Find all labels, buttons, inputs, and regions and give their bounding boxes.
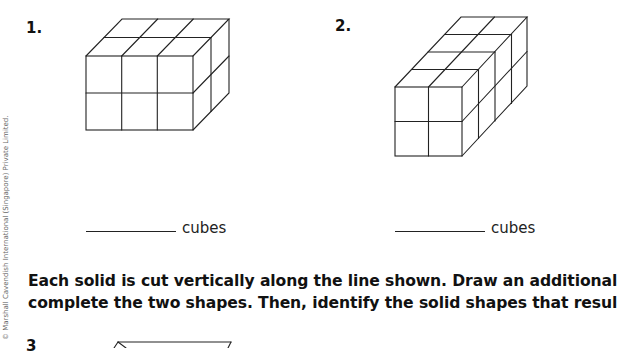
question-3-solid-partial <box>0 0 574 348</box>
